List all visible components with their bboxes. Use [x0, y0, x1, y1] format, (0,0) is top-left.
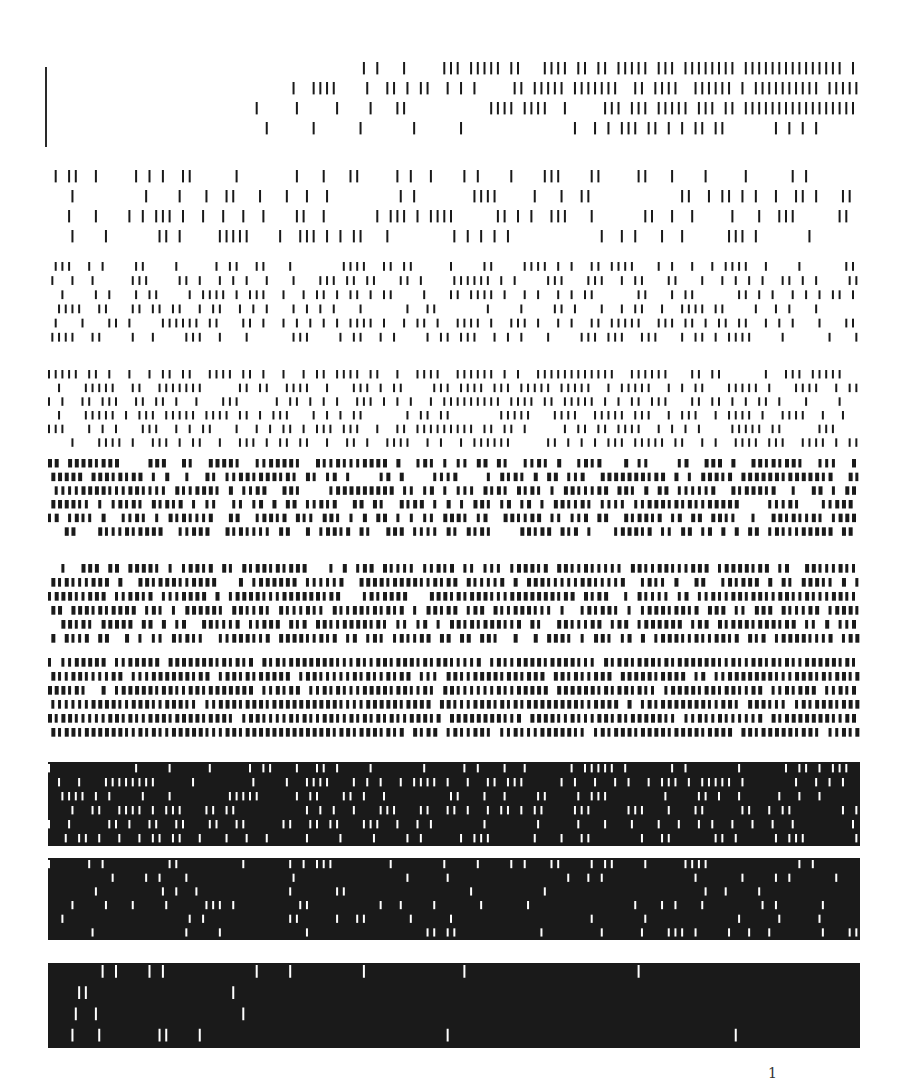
band-07	[48, 656, 860, 740]
band-09	[48, 858, 860, 940]
halftone-pattern	[48, 762, 860, 846]
halftone-test-sheet: 1	[0, 0, 907, 1088]
band-10-dense	[48, 963, 860, 1048]
halftone-pattern	[48, 60, 860, 140]
halftone-pattern	[48, 562, 860, 646]
band-05	[48, 457, 860, 539]
band-06	[48, 562, 860, 646]
band-04	[48, 368, 860, 450]
halftone-pattern	[48, 457, 860, 539]
band-08	[48, 762, 860, 846]
halftone-pattern	[48, 858, 860, 940]
halftone-pattern	[48, 168, 860, 248]
band-03	[48, 260, 860, 345]
page-number: 1	[768, 1066, 777, 1080]
halftone-pattern	[48, 963, 860, 1048]
halftone-pattern	[48, 656, 860, 740]
halftone-pattern	[48, 260, 860, 345]
band-02	[48, 168, 860, 248]
band-01-sparse	[48, 60, 860, 140]
left-vertical-rule	[45, 67, 47, 147]
halftone-pattern	[48, 368, 860, 450]
